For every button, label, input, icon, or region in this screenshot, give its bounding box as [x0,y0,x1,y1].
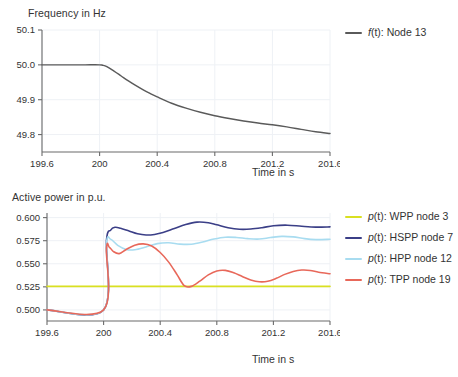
legend-color-swatch [345,258,362,260]
legend-color-swatch [345,237,362,239]
x-axis-tick-label: 199.6 [35,327,59,338]
x-axis-tick-label: 199.6 [30,158,54,169]
legend-item-label: p(t): TPP node 19 [368,274,451,285]
frequency-chart-panel: Frequency in Hz 50.150.049.949.8199.6200… [0,0,458,190]
legend-item-label: p(t): WPP node 3 [368,211,448,222]
y-axis-tick-label: 0.500 [16,304,40,315]
y-axis-tick-label: 0.575 [16,235,40,246]
active-power-chart-title: Active power in p.u. [12,191,106,203]
y-axis-tick-label: 0.550 [16,258,40,269]
series-line [42,65,330,134]
x-axis-tick-label: 200.4 [148,327,172,338]
x-axis-tick-label: 201.6 [318,158,340,169]
active-power-legend: p(t): WPP node 3p(t): HSPP node 7p(t): H… [345,206,453,290]
series-line [47,243,330,314]
legend-item[interactable]: p(t): TPP node 19 [345,269,453,290]
y-axis-tick-label: 0.600 [16,212,40,223]
legend-item[interactable]: p(t): WPP node 3 [345,206,453,227]
legend-item-label: p(t): HPP node 12 [368,253,452,264]
x-axis-tick-label: 200 [92,158,108,169]
x-axis-tick-label: 200 [96,327,112,338]
frequency-legend: f(t): Node 13 [345,22,426,43]
legend-item-label: p(t): HSPP node 7 [368,232,453,243]
legend-item[interactable]: p(t): HPP node 12 [345,248,453,269]
legend-item[interactable]: f(t): Node 13 [345,22,426,43]
legend-item-label: f(t): Node 13 [368,27,426,38]
y-axis-tick-label: 49.9 [17,94,36,105]
chart-page: Frequency in Hz 50.150.049.949.8199.6200… [0,0,458,377]
x-axis-tick-label: 200.8 [205,327,229,338]
legend-color-swatch [345,32,362,34]
y-axis-tick-label: 50.0 [17,59,36,70]
frequency-chart-title: Frequency in Hz [28,7,106,19]
x-axis-tick-label: 201.2 [262,327,286,338]
y-axis-tick-label: 49.8 [17,129,36,140]
active-power-plot: 0.6000.5750.5500.5250.500199.6200200.420… [0,205,340,351]
x-axis-tick-label: 201.6 [318,327,340,338]
legend-color-swatch [345,216,362,218]
x-axis-tick-label: 200.4 [145,158,169,169]
frequency-plot: 50.150.049.949.8199.6200200.4200.8201.22… [0,22,340,187]
y-axis-tick-label: 0.525 [16,281,40,292]
series-line [47,236,330,315]
y-axis-tick-label: 50.1 [17,24,36,35]
frequency-x-axis-title: Time in s [252,166,294,178]
active-power-x-axis-title: Time in s [252,353,294,365]
x-axis-tick-label: 200.8 [203,158,227,169]
legend-item[interactable]: p(t): HSPP node 7 [345,227,453,248]
legend-color-swatch [345,279,362,281]
active-power-chart-panel: Active power in p.u. 0.6000.5750.5500.52… [0,185,458,377]
